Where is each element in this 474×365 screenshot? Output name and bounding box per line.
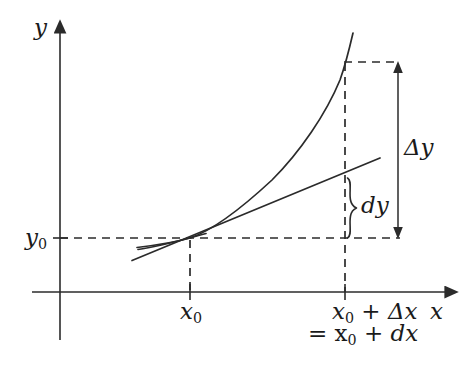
- y-axis-label: y: [34, 16, 47, 39]
- x0-subscript: 0: [193, 310, 202, 326]
- y0-base: y: [25, 224, 38, 250]
- delta-y-label: Δy: [404, 136, 434, 159]
- y0-tick-label: y0: [25, 226, 47, 251]
- dy-brace: [348, 178, 357, 238]
- equals-x0-plus-dx-label: = x0 + dx: [308, 322, 418, 347]
- x0-tick-label: x0: [180, 300, 202, 325]
- function-curve: [137, 33, 353, 248]
- y0-subscript: 0: [38, 236, 47, 252]
- x-axis-label: x: [430, 300, 443, 323]
- dy-label: dy: [361, 194, 389, 217]
- equals-x0-tail: + dx: [357, 320, 419, 346]
- equals-x0-subscript: 0: [348, 332, 357, 348]
- equals-x0-lead: = x: [308, 320, 348, 346]
- tangent-line: [132, 158, 380, 261]
- tick-group: [53, 238, 345, 300]
- differential-diagram-figure: y y0 x0 x0 + Δx = x0 + dx x Δy dy: [0, 0, 474, 365]
- delta-y-measure-arrow: [393, 61, 403, 239]
- guide-lines-group: [60, 62, 400, 292]
- axes-group: [32, 32, 446, 340]
- x0-base: x: [180, 298, 193, 324]
